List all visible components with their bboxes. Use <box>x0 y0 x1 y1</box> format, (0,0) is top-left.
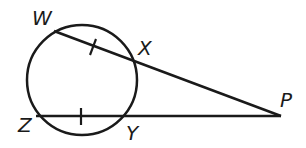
label-w: W <box>32 6 53 30</box>
secant-wp <box>54 31 281 116</box>
geometry-diagram: W X Z Y P <box>0 0 306 148</box>
label-y: Y <box>126 121 140 145</box>
label-x: X <box>137 36 153 60</box>
label-p: P <box>280 88 293 112</box>
label-z: Z <box>17 113 33 137</box>
